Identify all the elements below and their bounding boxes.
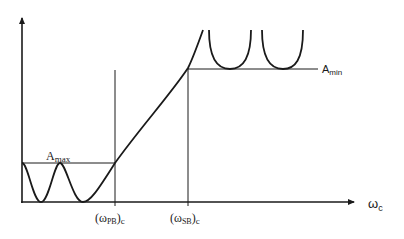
a-max-label: Amax — [46, 149, 71, 164]
attenuation-response-curve — [22, 30, 203, 202]
filter-attenuation-diagram: Amax Amin (ωPB)c (ωSB)c ωc — [0, 0, 404, 239]
stopband-lobe-2 — [262, 30, 303, 69]
a-min-label: Amin — [322, 63, 342, 77]
x-axis-label: ωc — [368, 196, 383, 213]
stopband-lobe-1 — [209, 30, 251, 69]
stopband-frequency-label: (ωSB)c — [170, 211, 200, 226]
passband-frequency-label: (ωPB)c — [95, 211, 125, 226]
